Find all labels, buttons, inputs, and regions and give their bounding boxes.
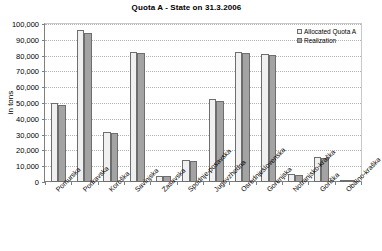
legend-label-realization: Realization [304,36,336,45]
x-axis-tick-label: Gorenjska [265,165,293,193]
x-axis-tick-label: Goriška [318,171,340,193]
x-axis-tick-label: Pomurska [55,166,82,193]
chart-legend: Allocated Quota A Realization [297,27,356,45]
x-axis-tick-label: Savinjska [134,167,160,193]
x-axis-tick-label: Osrednjeslovenska [239,146,286,193]
legend-item-allocated: Allocated Quota A [297,27,356,36]
x-axis-tick-label: Spodnje-posavska [186,147,232,193]
x-axis-tick-label: Podravska [81,165,109,193]
legend-item-realization: Realization [297,36,356,45]
legend-swatch-realization [297,38,302,43]
x-axis-tick-label: Zasavska [160,167,186,193]
x-axis-tick-label: Koroška [107,170,130,193]
x-axis-tick-label: Obalno-kraška [344,156,381,193]
legend-swatch-allocated [297,29,302,34]
legend-label-allocated: Allocated Quota A [304,27,356,36]
